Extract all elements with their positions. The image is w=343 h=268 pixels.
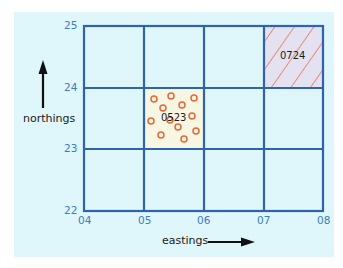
y-tick-24: 24	[64, 81, 77, 93]
northings-label: northings	[23, 112, 75, 125]
x-tick-05: 05	[138, 214, 151, 226]
eastings-arrow	[208, 238, 255, 247]
eastings-label: eastings	[162, 234, 208, 247]
x-tick-06: 06	[197, 214, 210, 226]
y-tick-22: 22	[64, 204, 77, 216]
x-tick-04: 04	[78, 214, 91, 226]
square-0724-label: 0724	[280, 50, 305, 61]
x-tick-07: 07	[257, 214, 270, 226]
x-tick-08: 08	[317, 214, 330, 226]
grid-diagram	[0, 0, 343, 268]
northings-arrow	[39, 60, 48, 108]
square-0523-label: 0523	[161, 112, 186, 123]
y-tick-23: 23	[64, 142, 77, 154]
y-tick-25: 25	[64, 19, 77, 31]
